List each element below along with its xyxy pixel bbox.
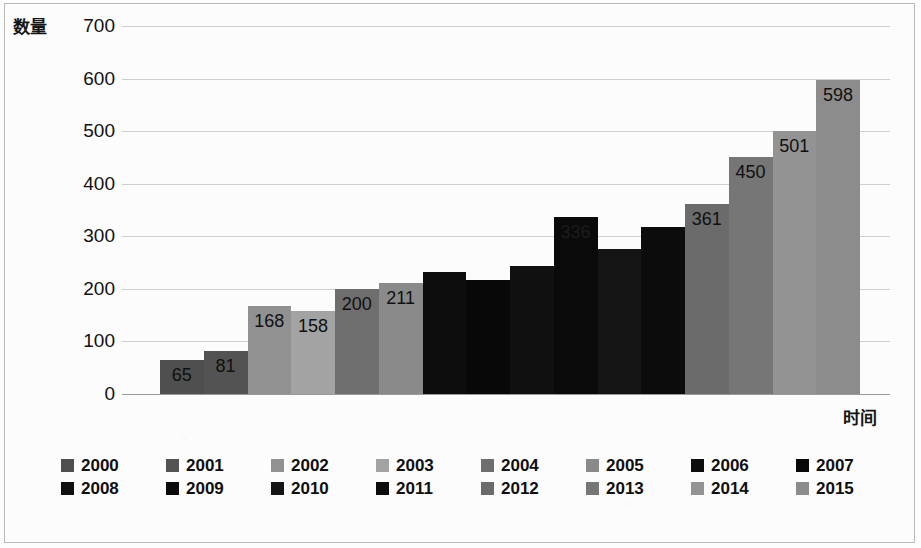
legend-swatch-icon-2001 bbox=[166, 459, 179, 472]
plot-area: 6581168158200211336361450501598 bbox=[122, 26, 890, 394]
bar-label-2014: 501 bbox=[779, 136, 809, 157]
y-tick-label-400: 400 bbox=[83, 173, 115, 195]
y-tick-label-0: 0 bbox=[104, 383, 115, 405]
bar-label-2005: 211 bbox=[386, 288, 415, 309]
legend-item-2000[interactable]: 2000 bbox=[61, 457, 166, 474]
bar-label-2012: 361 bbox=[692, 209, 722, 230]
bar-label-2015: 598 bbox=[823, 85, 853, 106]
legend-row-1: 20002001200220032004200520062007 bbox=[61, 454, 901, 477]
chart-legend: 2000200120022003200420052006200720082009… bbox=[61, 454, 901, 500]
legend-item-2010[interactable]: 2010 bbox=[271, 480, 376, 497]
legend-item-2005[interactable]: 2005 bbox=[586, 457, 691, 474]
bar-label-2002: 168 bbox=[254, 311, 284, 332]
y-tick-label-100: 100 bbox=[83, 330, 115, 352]
legend-swatch-icon-2009 bbox=[166, 482, 179, 495]
legend-label-2013: 2013 bbox=[606, 480, 644, 497]
legend-row-2: 20082009201020112012201320142015 bbox=[61, 477, 901, 500]
bar-label-2013: 450 bbox=[736, 162, 766, 183]
legend-label-2003: 2003 bbox=[396, 457, 434, 474]
bar-label-2003: 158 bbox=[298, 316, 328, 337]
legend-label-2006: 2006 bbox=[711, 457, 749, 474]
legend-label-2002: 2002 bbox=[291, 457, 329, 474]
legend-swatch-icon-2003 bbox=[376, 459, 389, 472]
bar-2010[interactable] bbox=[598, 249, 642, 394]
bar-2014[interactable] bbox=[773, 131, 817, 394]
y-tick-label-300: 300 bbox=[83, 225, 115, 247]
y-tick-label-700: 700 bbox=[83, 15, 115, 37]
bar-2015[interactable] bbox=[816, 80, 860, 394]
legend-label-2008: 2008 bbox=[81, 480, 119, 497]
legend-swatch-icon-2000 bbox=[61, 459, 74, 472]
gridline-0 bbox=[122, 394, 890, 395]
bar-label-2001: 81 bbox=[216, 356, 236, 377]
bar-series: 6581168158200211336361450501598 bbox=[160, 26, 860, 394]
bar-label-2000: 65 bbox=[172, 365, 192, 386]
legend-item-2002[interactable]: 2002 bbox=[271, 457, 376, 474]
bar-2007[interactable] bbox=[466, 280, 510, 394]
bar-2006[interactable] bbox=[423, 272, 467, 394]
legend-label-2005: 2005 bbox=[606, 457, 644, 474]
legend-item-2009[interactable]: 2009 bbox=[166, 480, 271, 497]
legend-item-2006[interactable]: 2006 bbox=[691, 457, 796, 474]
legend-swatch-icon-2006 bbox=[691, 459, 704, 472]
chart-frame: 数量 0100200300400500600700 65811681582002… bbox=[4, 3, 915, 543]
legend-label-2009: 2009 bbox=[186, 480, 224, 497]
y-tick-label-500: 500 bbox=[83, 120, 115, 142]
bar-2012[interactable] bbox=[685, 204, 729, 394]
legend-item-2012[interactable]: 2012 bbox=[481, 480, 586, 497]
legend-label-2015: 2015 bbox=[816, 480, 854, 497]
legend-item-2004[interactable]: 2004 bbox=[481, 457, 586, 474]
legend-item-2007[interactable]: 2007 bbox=[796, 457, 901, 474]
legend-label-2010: 2010 bbox=[291, 480, 329, 497]
legend-label-2000: 2000 bbox=[81, 457, 119, 474]
legend-label-2012: 2012 bbox=[501, 480, 539, 497]
legend-swatch-icon-2002 bbox=[271, 459, 284, 472]
bar-2011[interactable] bbox=[641, 227, 685, 394]
legend-swatch-icon-2004 bbox=[481, 459, 494, 472]
legend-swatch-icon-2014 bbox=[691, 482, 704, 495]
legend-swatch-icon-2011 bbox=[376, 482, 389, 495]
bar-label-2009: 336 bbox=[561, 222, 591, 243]
y-axis-tick-labels: 0100200300400500600700 bbox=[55, 26, 115, 394]
legend-item-2015[interactable]: 2015 bbox=[796, 480, 901, 497]
legend-label-2014: 2014 bbox=[711, 480, 749, 497]
x-axis-title: 时间 bbox=[843, 404, 877, 429]
legend-item-2003[interactable]: 2003 bbox=[376, 457, 481, 474]
legend-swatch-icon-2013 bbox=[586, 482, 599, 495]
y-tick-label-200: 200 bbox=[83, 278, 115, 300]
legend-swatch-icon-2008 bbox=[61, 482, 74, 495]
bar-label-2004: 200 bbox=[342, 294, 372, 315]
legend-label-2001: 2001 bbox=[186, 457, 224, 474]
legend-item-2008[interactable]: 2008 bbox=[61, 480, 166, 497]
y-tick-label-600: 600 bbox=[83, 68, 115, 90]
bar-2008[interactable] bbox=[510, 266, 554, 394]
legend-swatch-icon-2012 bbox=[481, 482, 494, 495]
legend-swatch-icon-2015 bbox=[796, 482, 809, 495]
legend-label-2004: 2004 bbox=[501, 457, 539, 474]
bar-2013[interactable] bbox=[729, 157, 773, 394]
bar-2009[interactable] bbox=[554, 217, 598, 394]
legend-swatch-icon-2010 bbox=[271, 482, 284, 495]
legend-swatch-icon-2005 bbox=[586, 459, 599, 472]
legend-item-2011[interactable]: 2011 bbox=[376, 480, 481, 497]
legend-label-2007: 2007 bbox=[816, 457, 854, 474]
legend-item-2013[interactable]: 2013 bbox=[586, 480, 691, 497]
legend-item-2001[interactable]: 2001 bbox=[166, 457, 271, 474]
legend-label-2011: 2011 bbox=[396, 480, 433, 497]
y-axis-title: 数量 bbox=[13, 13, 47, 38]
legend-swatch-icon-2007 bbox=[796, 459, 809, 472]
legend-item-2014[interactable]: 2014 bbox=[691, 480, 796, 497]
